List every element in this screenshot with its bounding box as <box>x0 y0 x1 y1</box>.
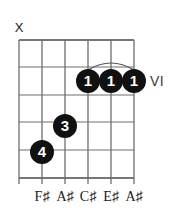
finger-dot-2: 1 <box>99 69 123 93</box>
finger-dot-1: 1 <box>76 69 100 93</box>
finger-dot-3: 1 <box>122 69 146 93</box>
finger-dot-5: 4 <box>30 140 54 164</box>
note-label-string-6: A♯ <box>121 190 147 204</box>
fret-position-label: VI <box>150 74 164 88</box>
guitar-chord-diagram: X 1 1 1 3 4 VI F♯ A♯ C♯ E♯ A♯ <box>0 0 177 219</box>
finger-dot-4: 3 <box>53 114 77 138</box>
fretboard-grid <box>0 0 177 219</box>
mute-marker-string-1: X <box>12 21 26 34</box>
